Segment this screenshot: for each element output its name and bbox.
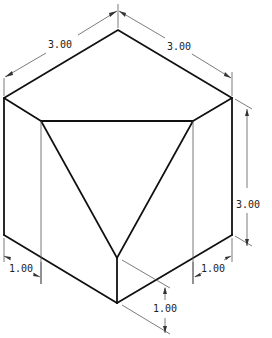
dimension-top-left: 3.00 (4, 4, 118, 96)
dimension-left-depth: 1.00 (4, 238, 41, 284)
dimension-top-right: 3.00 (119, 11, 232, 96)
top-left-to-cut-edge (4, 98, 41, 121)
dimension-label: 1.00 (153, 303, 177, 314)
dimension-bottom-height: 1.00 (122, 260, 177, 334)
dimension-right-depth: 1.00 (193, 238, 232, 284)
isometric-drawing: 3.00 3.00 3.00 1.00 1.00 (0, 0, 272, 338)
top-right-to-cut-edge (193, 98, 232, 121)
dimension-label: 1.00 (9, 263, 33, 274)
object-edges (4, 30, 232, 303)
triangular-cut-face (41, 121, 193, 258)
dimension-label: 3.00 (167, 41, 191, 52)
top-face-edge (4, 30, 232, 98)
dimension-label: 3.00 (236, 199, 260, 210)
dimension-label: 3.00 (48, 39, 72, 50)
dimension-label: 1.00 (201, 263, 225, 274)
dimension-right-height: 3.00 (235, 99, 260, 246)
